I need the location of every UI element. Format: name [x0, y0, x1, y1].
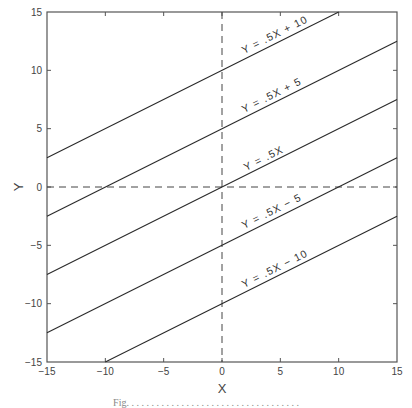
y-tick-label: −10: [25, 298, 42, 309]
y-tick-label: 15: [31, 7, 43, 18]
label-line-zero: Y = .5X: [242, 143, 286, 173]
y-tick-label: 0: [36, 182, 42, 193]
x-tick-label: 10: [333, 366, 345, 377]
x-tick-label: 0: [219, 366, 225, 377]
label-line-plus-5: Y = .5X + 5: [240, 75, 304, 115]
y-tick-labels: 15 10 5 0 −5 −10 −15: [25, 7, 42, 368]
x-tick-label: −10: [97, 366, 114, 377]
figure-caption: Fig. . . . . . . . . . . . . . . . . . .…: [0, 397, 412, 408]
x-tick-label: 5: [278, 366, 284, 377]
x-tick-label: −15: [39, 366, 56, 377]
label-line-plus-10: Y = .5X + 10: [240, 13, 310, 56]
x-tick-labels: −15 −10 −5 0 5 10 15: [39, 366, 403, 377]
x-axis-title: X: [218, 381, 227, 396]
y-tick-label: 10: [31, 65, 43, 76]
x-tick-label: 15: [391, 366, 403, 377]
label-line-minus-5: Y = .5X − 5: [240, 191, 304, 231]
x-tick-label: −5: [158, 366, 170, 377]
line-y-half-x-minus-10: [105, 216, 397, 362]
line-labels: Y = .5X + 10 Y = .5X + 5 Y = .5X Y = .5X…: [240, 13, 310, 290]
y-tick-label: −5: [31, 240, 43, 251]
y-tick-label: 5: [36, 123, 42, 134]
y-axis-title: Y: [11, 182, 26, 191]
line-y-half-x-plus-5: [47, 41, 397, 216]
label-line-minus-10: Y = .5X − 10: [240, 247, 310, 290]
